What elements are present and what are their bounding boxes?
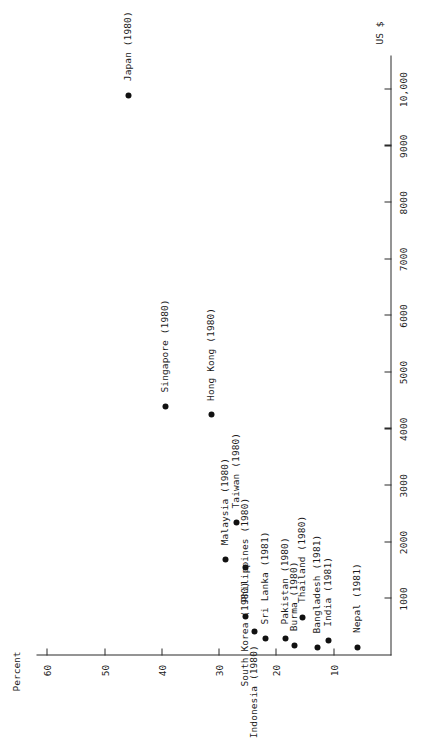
x-tick-label: 8000 <box>397 190 408 214</box>
data-point <box>291 642 297 648</box>
data-point <box>125 92 131 98</box>
y-tick <box>46 648 47 655</box>
data-point-label: Sri Lanka (1981) <box>258 531 269 624</box>
x-tick-label: 3000 <box>397 473 408 497</box>
x-tick-label: 9000 <box>397 134 408 158</box>
x-tick-label: 7000 <box>397 247 408 271</box>
data-point <box>251 628 257 634</box>
y-tick-label: 10 <box>328 664 339 676</box>
data-point <box>242 613 248 619</box>
x-tick <box>384 88 391 89</box>
data-point-label: Malaysia (1980) <box>218 457 229 544</box>
data-point-label: Nepal (1981) <box>350 563 361 633</box>
x-tick <box>384 427 391 428</box>
data-point-label: India (1981) <box>321 556 332 626</box>
data-point <box>222 556 228 562</box>
x-tick <box>384 371 391 372</box>
x-axis-title: US $ <box>373 21 384 44</box>
x-tick-label: 6000 <box>397 304 408 328</box>
x-tick-label: 10,000 <box>397 71 408 107</box>
y-tick <box>161 648 162 655</box>
data-point-label: Hong Kong (1980) <box>204 307 215 400</box>
data-point-label: Philippines (1980) <box>238 497 249 602</box>
x-tick <box>384 484 391 485</box>
data-point <box>354 644 360 650</box>
data-point-label: Taiwan (1980) <box>229 432 240 508</box>
x-tick-label: 2000 <box>397 530 408 554</box>
y-tick-label: 30 <box>214 664 225 676</box>
x-tick-label: 5000 <box>397 360 408 384</box>
data-point-label: Indonesia (1980) <box>247 645 258 738</box>
y-tick <box>333 648 334 655</box>
data-point <box>314 644 320 650</box>
data-point-label: Japan (1980) <box>121 11 132 81</box>
x-tick <box>384 541 391 542</box>
scatter-plot: US $ Percent 100020003000400050006000700… <box>36 55 391 655</box>
x-tick <box>384 144 391 145</box>
data-point <box>325 637 331 643</box>
x-tick <box>384 258 391 259</box>
x-tick-label: 1000 <box>397 587 408 611</box>
y-tick-label: 20 <box>271 664 282 676</box>
data-point-label: Thailand (1980) <box>295 515 306 602</box>
data-point <box>262 635 268 641</box>
data-point <box>282 635 288 641</box>
y-tick <box>104 648 105 655</box>
data-point-label: Singapore (1980) <box>158 299 169 392</box>
y-axis-title: Percent <box>10 651 21 691</box>
y-axis-line <box>36 654 391 655</box>
y-tick <box>275 648 276 655</box>
y-tick <box>218 648 219 655</box>
x-tick <box>384 597 391 598</box>
y-tick-label: 60 <box>42 664 53 676</box>
data-point <box>299 614 305 620</box>
data-point-label: Bangladesh (1981) <box>310 534 321 633</box>
x-tick <box>384 201 391 202</box>
y-tick-label: 50 <box>99 664 110 676</box>
x-tick-label: 4000 <box>397 417 408 441</box>
x-tick <box>384 314 391 315</box>
y-tick-label: 40 <box>156 664 167 676</box>
data-point <box>208 411 214 417</box>
data-point <box>162 403 168 409</box>
